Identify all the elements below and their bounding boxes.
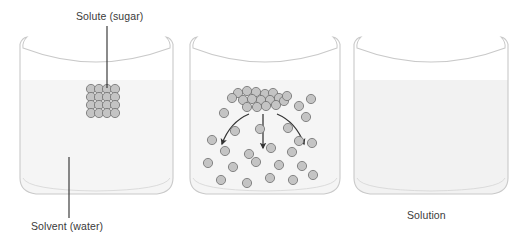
- solvent-label: Solvent (water): [31, 220, 103, 232]
- beaker-3-liquid: [352, 80, 510, 198]
- dissolution-diagram: Solute (sugar) Solvent (water) Solution: [0, 0, 518, 248]
- beaker-2-rim: [190, 37, 340, 62]
- beaker-2: [188, 37, 342, 198]
- beaker-3-rim: [354, 37, 508, 62]
- solute-label: Solute (sugar): [76, 10, 143, 22]
- solution-label: Solution: [407, 209, 446, 221]
- beaker-1-rim: [20, 37, 173, 62]
- beaker-3: [352, 37, 510, 198]
